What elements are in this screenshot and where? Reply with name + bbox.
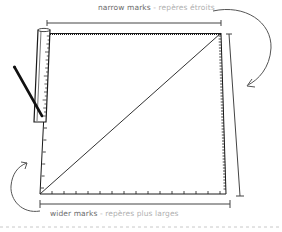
square-top-edge bbox=[48, 33, 221, 36]
bottom-dimension-line bbox=[40, 200, 230, 208]
narrow-marks-french: repères étroits bbox=[159, 3, 215, 12]
square-bottom-edge bbox=[40, 191, 226, 194]
measurement-diagram: narrow marks - repères étroits wider mar… bbox=[0, 0, 282, 232]
top-dimension-line bbox=[47, 20, 221, 26]
narrow-marks-separator: - bbox=[151, 3, 159, 12]
square-diagonal bbox=[40, 33, 221, 194]
square-right-edge bbox=[219, 33, 227, 194]
narrow-marks-label: narrow marks - repères étroits bbox=[98, 3, 215, 12]
wider-marks-english: wider marks bbox=[50, 209, 97, 218]
narrow-marks-english: narrow marks bbox=[98, 3, 151, 12]
diagram-canvas bbox=[0, 0, 282, 232]
wider-marks-french: repères plus larges bbox=[105, 209, 178, 218]
right-dimension-line bbox=[226, 34, 244, 196]
wider-marks-label: wider marks - repères plus larges bbox=[50, 209, 179, 218]
curved-arrow-left-icon bbox=[11, 162, 40, 211]
